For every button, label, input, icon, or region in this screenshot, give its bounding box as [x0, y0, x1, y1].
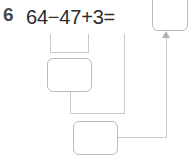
arrow-horizontal-segment — [118, 137, 167, 138]
intermediate-answer-box-addition[interactable] — [73, 121, 118, 155]
bracket-upper-crossbar — [50, 52, 89, 53]
equation-expression: 64−47+3= — [26, 5, 115, 29]
worksheet-problem: 6 64−47+3= — [0, 0, 190, 166]
bracket-lower-left-stem — [70, 92, 71, 114]
arrow-up-icon — [162, 31, 170, 38]
problem-number: 6 — [3, 4, 14, 26]
intermediate-answer-box-subtraction[interactable] — [47, 58, 92, 92]
bracket-upper-right-stem — [88, 34, 89, 53]
bracket-lower-crossbar — [70, 113, 125, 114]
bracket-lower-right-stem — [124, 34, 125, 114]
arrow-vertical-segment — [166, 37, 167, 138]
final-answer-box[interactable] — [152, 0, 188, 31]
bracket-upper-left-stem — [50, 34, 51, 53]
